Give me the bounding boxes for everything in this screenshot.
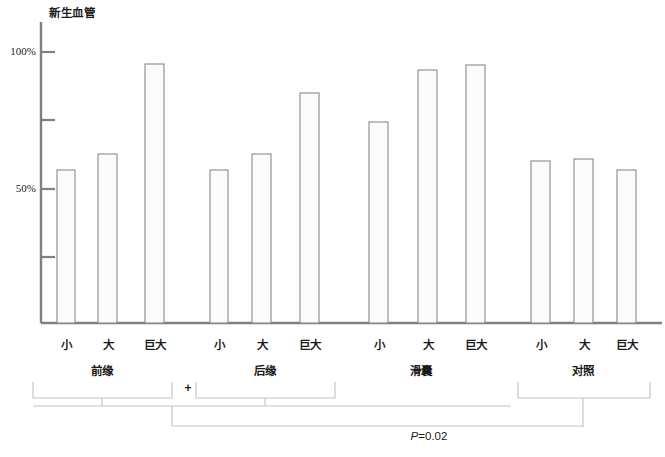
group-label-leading-edge: 前缘 — [62, 362, 142, 378]
group-label-trailing-edge: 后缘 — [225, 362, 305, 378]
x-tick-label-control-small: 小 — [519, 336, 563, 352]
x-tick-label-trailing-edge-huge: 巨大 — [288, 336, 332, 352]
x-tick-label-leading-edge-small: 小 — [44, 336, 88, 352]
y-tick-label-50: 50% — [0, 182, 36, 194]
chart-text-layer: 新生血管 100% 50% 小 大 巨大 小 大 巨大 小 大 巨大 小 大 巨… — [0, 0, 665, 457]
group-label-control: 对照 — [543, 362, 623, 378]
x-tick-label-bursa-huge: 巨大 — [454, 336, 498, 352]
p-value-number: =0.02 — [418, 430, 447, 442]
p-value-annotation: P=0.02 — [369, 430, 489, 442]
y-tick-label-100: 100% — [0, 45, 36, 57]
x-tick-label-trailing-edge-large: 大 — [240, 336, 284, 352]
group-label-bursa: 滑囊 — [381, 362, 461, 378]
plus-sign-annotation: + — [181, 381, 195, 395]
y-axis-title: 新生血管 — [49, 4, 95, 20]
x-tick-label-leading-edge-large: 大 — [86, 336, 130, 352]
x-tick-label-leading-edge-huge: 巨大 — [133, 336, 177, 352]
x-tick-label-bursa-large: 大 — [406, 336, 450, 352]
x-tick-label-control-large: 大 — [562, 336, 606, 352]
x-tick-label-trailing-edge-small: 小 — [197, 336, 241, 352]
chart-container: 新生血管 100% 50% 小 大 巨大 小 大 巨大 小 大 巨大 小 大 巨… — [0, 0, 665, 457]
x-tick-label-control-huge: 巨大 — [605, 336, 649, 352]
x-tick-label-bursa-small: 小 — [357, 336, 401, 352]
